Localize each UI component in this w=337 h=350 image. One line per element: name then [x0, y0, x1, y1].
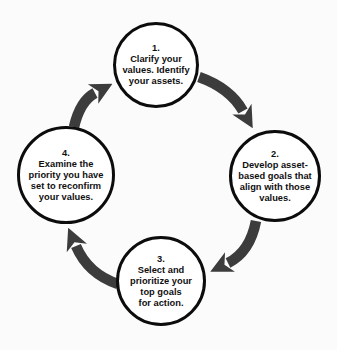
- cycle-diagram: 1. Clarify your values. Identify your as…: [0, 0, 337, 350]
- arrow-step1-to-step2-icon: [199, 77, 243, 111]
- cycle-step-1-circle: 1. Clarify your values. Identify your as…: [113, 22, 199, 108]
- arrow-step4-to-step1-icon: [74, 93, 95, 127]
- cycle-step-3-label: 3. Select and prioritize your top goals …: [130, 254, 192, 309]
- cycle-step-2-label: 2. Develop asset- based goals that align…: [238, 149, 311, 204]
- arrow-step2-to-step3-icon: [228, 221, 256, 263]
- cycle-step-4-circle: 4. Examine the priority you have set to …: [17, 126, 115, 224]
- cycle-step-2-circle: 2. Develop asset- based goals that align…: [229, 130, 321, 222]
- cycle-step-4-label: 4. Examine the priority you have set to …: [29, 148, 104, 203]
- cycle-step-1-label: 1. Clarify your values. Identify your as…: [122, 43, 189, 87]
- arrow-step3-to-step4-icon: [76, 246, 118, 284]
- cycle-step-3-circle: 3. Select and prioritize your top goals …: [116, 236, 206, 326]
